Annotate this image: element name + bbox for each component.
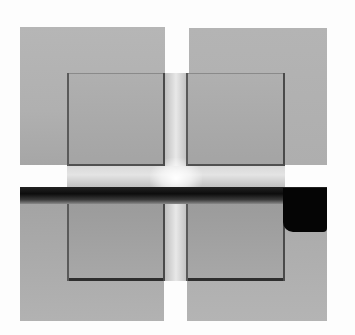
- dark-blob-right: [283, 188, 327, 232]
- scene: [0, 0, 355, 335]
- inner-square-bottom-left: [67, 197, 165, 281]
- inner-square-top-right: [186, 73, 285, 166]
- inner-square-top-left: [67, 73, 165, 166]
- inner-square-bottom-right: [186, 197, 285, 281]
- dark-band: [20, 187, 327, 204]
